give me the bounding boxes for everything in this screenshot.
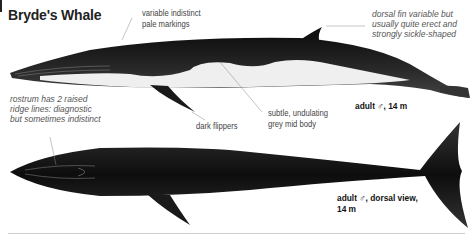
caption-dorsal-view: adult ♂, dorsal view, 14 m: [337, 192, 418, 214]
annotation-mid-body: subtle, undulating grey mid body: [268, 108, 328, 129]
caption-side-view: adult ♂, 14 m: [355, 100, 407, 111]
annotation-rostrum: rostrum has 2 raised ridge lines: diagno…: [10, 94, 101, 124]
dorsal-flipper: [148, 195, 190, 225]
annotation-flippers: dark flippers: [196, 121, 238, 132]
bottom-divider: [8, 233, 465, 234]
flipper: [150, 85, 195, 112]
annotation-dorsal-fin: dorsal fin variable but usually quite er…: [372, 9, 457, 39]
annotation-pale-markings: variable indistinct pale markings: [142, 8, 201, 29]
